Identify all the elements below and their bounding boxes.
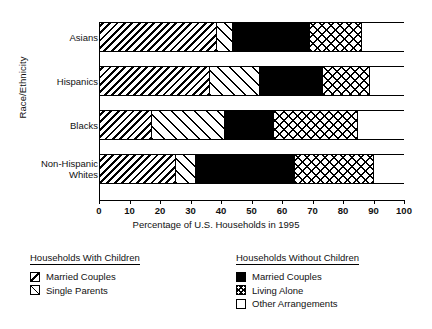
bar-segment [210,67,260,95]
x-axis-tick-label: 100 [389,205,419,216]
legend-item: Married Couples [30,271,140,282]
x-axis-tick [191,200,192,204]
bar-segment [217,23,232,51]
category-label: Hispanics [0,76,98,87]
bar-segment [196,155,295,183]
category-label: Asians [0,32,98,43]
x-axis-tick [99,200,100,204]
category-label: Non-Hispanic Whites [0,158,98,180]
x-axis-tick-label: 80 [328,205,358,216]
stacked-bar-chart: Race/Ethnicity 0102030405060708090100 As… [0,0,432,240]
bar-segment [152,111,225,139]
bar-segment [225,111,274,139]
x-axis-tick [160,200,161,204]
x-axis-tick-label: 0 [84,205,114,216]
x-axis-tick-label: 50 [237,205,267,216]
bar-segment [310,23,362,51]
x-axis-tick [374,200,375,204]
diagonal-hatch-dense-icon [30,272,40,282]
bar-segment [100,155,176,183]
bar-segment [370,67,405,95]
x-axis-tick [221,200,222,204]
cross-hatch-icon [236,285,246,295]
category-label: Blacks [0,120,98,131]
legend-item: Single Parents [30,285,140,296]
bar-segment [323,67,370,95]
legend-title: Households Without Children [236,252,359,265]
legend-item: Living Alone [236,285,359,296]
bar-track [99,22,404,52]
bar-segment [100,111,152,139]
x-axis-tick [343,200,344,204]
legend-title: Households With Children [30,252,140,265]
bar-row: Blacks [99,110,404,140]
legend-item-label: Married Couples [252,271,322,282]
bar-segment [362,23,405,51]
x-axis-tick [252,200,253,204]
solid-black-icon [236,272,246,282]
bar-row: Asians [99,22,404,52]
bar-segment [274,111,358,139]
bar-segment [358,111,405,139]
bar-track [99,154,404,184]
legend-item-label: Other Arrangements [252,298,338,309]
x-axis-title: Percentage of U.S. Households in 1995 [0,219,432,230]
white-square-icon [236,299,246,309]
bar-track [99,66,404,96]
legend-item-label: Single Parents [46,285,108,296]
x-axis-tick-label: 90 [359,205,389,216]
diagonal-hatch-sparse-icon [30,285,40,295]
legend-households-with-children: Households With Children Married Couples… [30,252,140,298]
x-axis-tick-label: 40 [206,205,236,216]
legend-item: Married Couples [236,271,359,282]
bar-segment [100,67,210,95]
x-axis-tick-label: 30 [176,205,206,216]
bar-segment [260,67,323,95]
legend-item-label: Married Couples [46,271,116,282]
legend-households-without-children: Households Without Children Married Coup… [236,252,359,312]
bar-track [99,110,404,140]
x-axis-tick-label: 20 [145,205,175,216]
bar-segment [100,23,217,51]
x-axis-tick [282,200,283,204]
x-axis-tick [313,200,314,204]
bar-segment [375,155,406,183]
legend-item: Other Arrangements [236,298,359,309]
x-axis-tick-label: 60 [267,205,297,216]
bar-row: Non-Hispanic Whites [99,154,404,184]
x-axis-tick [404,200,405,204]
bar-segment [233,23,311,51]
x-axis-tick [130,200,131,204]
legend-item-label: Living Alone [252,285,303,296]
bar-row: Hispanics [99,66,404,96]
bar-segment [295,155,374,183]
x-axis-tick-label: 70 [298,205,328,216]
bar-segment [176,155,196,183]
x-axis-tick-label: 10 [115,205,145,216]
